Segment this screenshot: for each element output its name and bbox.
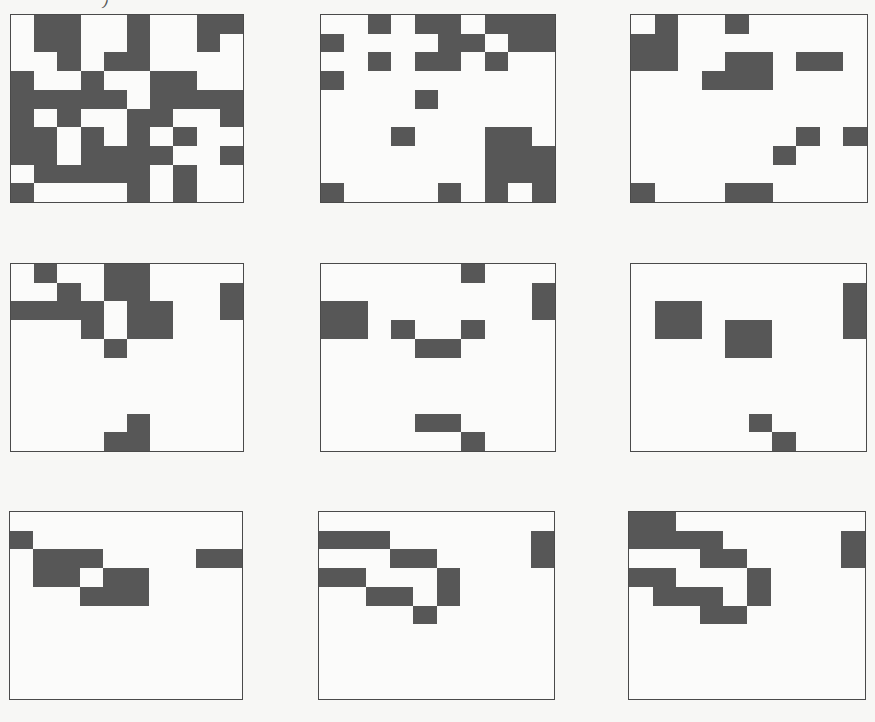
filled-cell (485, 146, 508, 165)
empty-cell (461, 15, 484, 34)
empty-cell (197, 320, 220, 339)
empty-cell (771, 606, 795, 625)
empty-cell (173, 146, 196, 165)
filled-cell (11, 183, 34, 202)
empty-cell (196, 643, 219, 662)
empty-cell (794, 549, 818, 568)
empty-cell (368, 358, 391, 377)
empty-cell (437, 680, 461, 699)
empty-cell (173, 432, 196, 451)
empty-cell (749, 165, 773, 184)
empty-cell (173, 15, 196, 34)
empty-cell (415, 264, 438, 283)
empty-cell (629, 624, 653, 643)
filled-cell (104, 165, 127, 184)
empty-cell (415, 183, 438, 202)
filled-cell (532, 301, 555, 320)
empty-cell (631, 283, 655, 302)
empty-cell (819, 320, 843, 339)
empty-cell (104, 127, 127, 146)
empty-cell (104, 358, 127, 377)
empty-cell (366, 512, 390, 531)
empty-cell (56, 643, 79, 662)
empty-cell (219, 587, 242, 606)
filled-cell (104, 432, 127, 451)
empty-cell (81, 183, 104, 202)
empty-cell (56, 624, 79, 643)
empty-cell (126, 662, 149, 681)
empty-cell (653, 680, 677, 699)
empty-cell (415, 432, 438, 451)
empty-cell (678, 264, 702, 283)
empty-cell (321, 109, 344, 128)
filled-cell (127, 165, 150, 184)
empty-cell (321, 165, 344, 184)
empty-cell (772, 395, 796, 414)
pattern-grid-3-3 (628, 511, 866, 700)
filled-cell (843, 320, 867, 339)
empty-cell (676, 549, 700, 568)
empty-cell (772, 376, 796, 395)
empty-cell (749, 34, 773, 53)
empty-cell (150, 432, 173, 451)
filled-cell (700, 549, 724, 568)
filled-cell (57, 15, 80, 34)
empty-cell (796, 283, 820, 302)
empty-cell (344, 71, 367, 90)
empty-cell (843, 414, 867, 433)
empty-cell (366, 624, 390, 643)
empty-cell (149, 512, 172, 531)
empty-cell (460, 643, 484, 662)
empty-cell (794, 624, 818, 643)
filled-cell (749, 71, 773, 90)
empty-cell (678, 71, 702, 90)
empty-cell (81, 414, 104, 433)
empty-cell (655, 109, 679, 128)
empty-cell (484, 662, 508, 681)
empty-cell (508, 376, 531, 395)
empty-cell (820, 109, 844, 128)
empty-cell (11, 264, 34, 283)
empty-cell (485, 90, 508, 109)
filled-cell (415, 414, 438, 433)
empty-cell (484, 643, 508, 662)
empty-cell (11, 15, 34, 34)
filled-cell (34, 165, 57, 184)
empty-cell (319, 680, 343, 699)
empty-cell (702, 264, 726, 283)
empty-cell (415, 301, 438, 320)
filled-cell (725, 52, 749, 71)
filled-cell (57, 165, 80, 184)
empty-cell (508, 339, 531, 358)
empty-cell (413, 512, 437, 531)
empty-cell (508, 414, 531, 433)
filled-cell (34, 90, 57, 109)
empty-cell (173, 52, 196, 71)
empty-cell (34, 414, 57, 433)
empty-cell (772, 358, 796, 377)
empty-cell (749, 15, 773, 34)
empty-cell (631, 376, 655, 395)
empty-cell (11, 414, 34, 433)
empty-cell (368, 339, 391, 358)
filled-cell (531, 531, 555, 550)
empty-cell (197, 358, 220, 377)
filled-cell (438, 15, 461, 34)
empty-cell (321, 283, 344, 302)
empty-cell (796, 301, 820, 320)
empty-cell (653, 624, 677, 643)
empty-cell (219, 512, 242, 531)
empty-cell (57, 339, 80, 358)
empty-cell (172, 549, 195, 568)
empty-cell (841, 606, 865, 625)
filled-cell (57, 90, 80, 109)
empty-cell (653, 662, 677, 681)
empty-cell (723, 568, 747, 587)
empty-cell (631, 165, 655, 184)
filled-cell (127, 127, 150, 146)
filled-cell (80, 587, 103, 606)
empty-cell (702, 376, 726, 395)
filled-cell (81, 146, 104, 165)
filled-cell (437, 587, 461, 606)
empty-cell (702, 146, 726, 165)
